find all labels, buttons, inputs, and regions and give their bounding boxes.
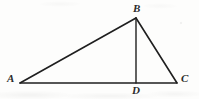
vertex-label-a: A	[7, 73, 14, 84]
triangle-figure: A B C D	[0, 0, 199, 99]
segment-ab	[20, 18, 136, 83]
vertex-label-b: B	[133, 3, 140, 14]
segment-bc	[136, 18, 177, 83]
vertex-label-d: D	[132, 85, 140, 96]
triangle-diagram-svg	[0, 0, 199, 99]
vertex-label-c: C	[181, 73, 188, 84]
